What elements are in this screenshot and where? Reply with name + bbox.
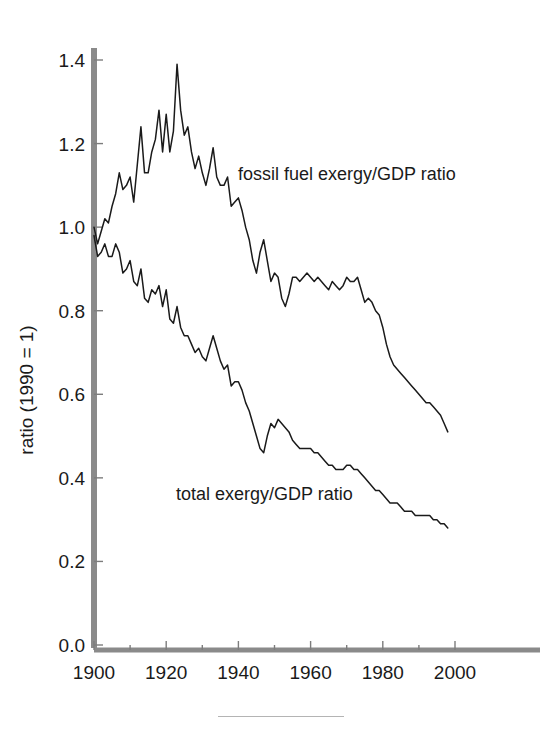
series-line-fossil-fuel <box>94 64 448 432</box>
y-tick-label: 1.4 <box>59 50 86 71</box>
x-tick-label: 1960 <box>289 662 331 683</box>
y-tick-label: 0.6 <box>59 384 85 405</box>
y-tick-label: 1.0 <box>59 217 85 238</box>
x-tick-label: 1980 <box>362 662 404 683</box>
x-tick-label: 2000 <box>434 662 476 683</box>
x-tick-label: 1900 <box>73 662 115 683</box>
exergy-gdp-ratio-chart: 0.00.20.40.60.81.01.21.4 190019201940196… <box>0 0 551 736</box>
x-tick-label: 1940 <box>217 662 259 683</box>
y-tick-label: 1.2 <box>59 134 85 155</box>
y-tick-label: 0.8 <box>59 301 85 322</box>
footer-divider-rule <box>218 716 344 717</box>
y-tick-label: 0.4 <box>59 468 86 489</box>
series-label-fossil-fuel: fossil fuel exergy/GDP ratio <box>238 164 456 184</box>
y-axis-title: ratio (1990 = 1) <box>16 325 37 454</box>
y-tick-label: 0.2 <box>59 551 85 572</box>
y-tick-label: 0.0 <box>59 635 85 656</box>
y-tick-label-group: 0.00.20.40.60.81.01.21.4 <box>59 50 86 656</box>
x-tick-label: 1920 <box>145 662 187 683</box>
x-tick-label-group: 190019201940196019802000 <box>73 662 476 683</box>
figure-container: 0.00.20.40.60.81.01.21.4 190019201940196… <box>0 0 551 736</box>
series-label-total-exergy: total exergy/GDP ratio <box>176 484 353 504</box>
